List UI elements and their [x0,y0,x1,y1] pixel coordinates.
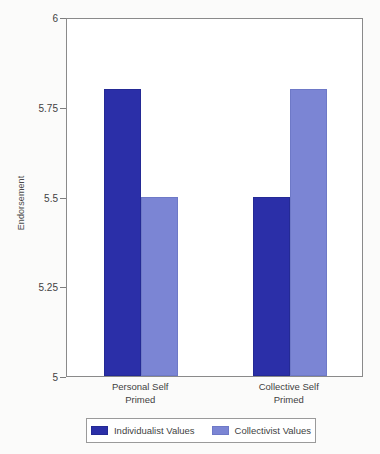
y-tick-label: 5 [0,372,58,383]
x-category-label: Collective Self Primed [209,381,369,406]
y-tick-label: 6 [0,13,58,24]
bar [290,89,327,376]
y-tick-label: 5.75 [0,102,58,113]
legend-swatch-icon [212,426,229,435]
chart-legend: Individualist ValuesCollectivist Values [86,418,316,443]
y-tick-mark [60,198,66,199]
y-tick-mark [60,18,66,19]
y-axis-title: Endorsement [16,143,26,263]
legend-label: Collectivist Values [235,425,311,436]
y-tick-mark [60,377,66,378]
bar [141,197,178,377]
y-tick-label: 5.25 [0,282,58,293]
x-category-label: Personal Self Primed [60,381,220,406]
legend-item: Individualist Values [91,425,195,436]
bar [253,197,290,377]
bar [104,89,141,376]
plot-area [66,18,363,377]
bar-chart-figure: Endorsement 55.255.55.756 Personal Self … [0,0,380,454]
y-tick-label: 5.5 [0,192,58,203]
y-tick-mark [60,287,66,288]
legend-label: Individualist Values [114,425,195,436]
legend-swatch-icon [91,426,108,435]
y-tick-mark [60,108,66,109]
legend-item: Collectivist Values [212,425,311,436]
